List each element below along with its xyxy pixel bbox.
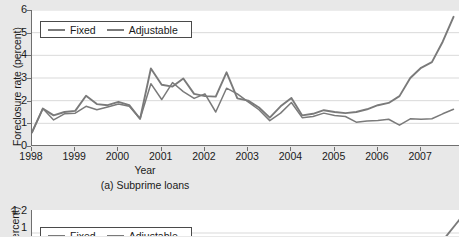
legend-label-adjustable-b: Adjustable bbox=[129, 230, 184, 237]
x-tick-label: 2007 bbox=[397, 151, 443, 162]
x-tick-mark bbox=[290, 147, 291, 151]
y-tick-label-panel-b: 1.2 bbox=[3, 205, 27, 216]
x-tick-mark bbox=[74, 147, 75, 151]
x-tick-mark bbox=[377, 147, 378, 151]
x-tick-mark bbox=[117, 147, 118, 151]
x-tick-label: 2000 bbox=[94, 151, 140, 162]
legend-panel-b: Fixed Adjustable bbox=[40, 227, 192, 236]
x-tick-label: 2006 bbox=[354, 151, 400, 162]
x-tick-mark bbox=[31, 147, 32, 151]
panel-a-caption: (a) Subprime loans bbox=[0, 179, 290, 191]
legend-label-adjustable: Adjustable bbox=[129, 24, 184, 36]
legend-panel-a: Fixed Adjustable bbox=[40, 21, 192, 38]
x-tick-mark bbox=[334, 147, 335, 151]
x-tick-label: 2003 bbox=[224, 151, 270, 162]
legend-swatch-adjustable-icon-b bbox=[107, 235, 124, 237]
panel-prime-loans-cropped: percent) 1.21 Fixed Adjustable bbox=[0, 205, 459, 236]
legend-swatch-fixed-icon bbox=[48, 29, 65, 31]
legend-label-fixed: Fixed bbox=[70, 24, 102, 36]
x-tick-label: 2005 bbox=[311, 151, 357, 162]
panel-subprime-loans: Foreclosure rate (percent) 0123456 19981… bbox=[0, 0, 459, 195]
legend-label-fixed-b: Fixed bbox=[70, 230, 102, 237]
x-tick-mark bbox=[161, 147, 162, 151]
x-axis-title-panel-a: Year bbox=[0, 164, 290, 176]
legend-swatch-adjustable-icon bbox=[107, 29, 124, 31]
x-tick-mark bbox=[420, 147, 421, 151]
figure-container: Foreclosure rate (percent) 0123456 19981… bbox=[0, 0, 459, 236]
x-tick-mark bbox=[204, 147, 205, 151]
x-tick-mark bbox=[247, 147, 248, 151]
y-tick-label-panel-b: 1 bbox=[3, 222, 27, 233]
legend-swatch-fixed-icon-b bbox=[48, 235, 65, 237]
x-tick-label: 1998 bbox=[8, 151, 54, 162]
x-tick-label: 2001 bbox=[138, 151, 184, 162]
x-tick-label: 2004 bbox=[267, 151, 313, 162]
x-tick-label: 2002 bbox=[181, 151, 227, 162]
x-tick-label: 1999 bbox=[51, 151, 97, 162]
